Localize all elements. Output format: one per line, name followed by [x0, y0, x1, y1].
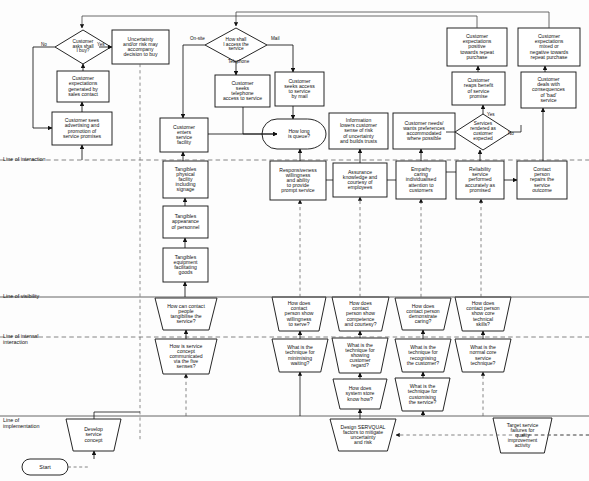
edge-access-mail: [267, 45, 293, 72]
node-how-does-system-store-know-how: [333, 379, 387, 409]
node-customer-enters-service-facility: [160, 118, 208, 152]
node-develop-service-concept: [66, 419, 121, 451]
node-technique-recognising-customer: [395, 339, 451, 372]
node-how-does-demonstrate-caring: [395, 298, 451, 330]
edge-access-onsite: [183, 45, 205, 118]
node-normal-core-service-technique: [455, 339, 511, 372]
node-tangibles-appearance-personnel: [163, 206, 208, 238]
edge-feedback-positive-to-start: [82, 16, 477, 28]
node-uncertainty-risk-accompany: [112, 30, 169, 64]
node-how-does-show-technical-skills: [455, 297, 511, 331]
service-blueprint-diagram: Line of interactionLine of visibilityLin…: [0, 0, 589, 481]
edge-develop-concept-link: [94, 412, 140, 419]
edge-feedback-mixed-to-access: [236, 12, 549, 28]
node-services-rendered-as-expected: [455, 114, 511, 150]
node-tangibles-equipment-goods: [163, 248, 208, 282]
node-how-shall-i-access-service: [205, 28, 267, 62]
node-responsiveness: [270, 161, 326, 200]
node-design-servqual-factors: [330, 419, 396, 451]
node-reliability: [456, 161, 504, 199]
band-label-line-of-visibility: Line of visibility: [3, 293, 39, 299]
band-label-line-of-internal-interaction: Line of internal interaction: [3, 333, 38, 345]
node-how-is-service-concept-communicated: [155, 339, 217, 374]
edge-label-label-yes-rendered: Yes: [487, 112, 495, 117]
node-how-can-contact-tangibilise: [155, 298, 217, 330]
edge-label-label-no-rendered: No: [508, 131, 514, 136]
node-contact-person-repairs: [517, 161, 567, 199]
node-customer-seeks-access-by-mail: [275, 72, 324, 106]
node-customer-sees-advertising: [52, 112, 112, 145]
edge-label-label-onsite: On-site: [190, 36, 205, 41]
node-technique-minimising-waiting: [272, 339, 328, 372]
node-information-lowers-risk: [329, 113, 388, 149]
node-how-does-show-competence: [332, 297, 389, 331]
node-how-does-show-willingness: [272, 297, 326, 331]
node-label-start: Start: [22, 459, 68, 475]
node-customer-expectations-mixed: [518, 28, 580, 66]
node-technique-customising-service: [395, 378, 450, 411]
node-target-service-failures: [493, 418, 552, 453]
band-label-line-of-interaction: Line of interaction: [3, 156, 46, 162]
edge-label-label-mail: Mail: [271, 36, 279, 41]
diagram-canvas: [0, 0, 589, 481]
node-customer-expectations-positive: [447, 28, 507, 66]
node-tangibles-physical-facility: [163, 161, 208, 198]
node-customer-expectations-sales-contact: [57, 71, 109, 102]
edge-label-label-telephone: Telephone: [228, 59, 249, 64]
edge-label-label-yes-buy: Yes: [97, 42, 105, 47]
node-customer-reaps-benefit: [452, 72, 505, 105]
node-technique-showing-customer-regard: [332, 338, 388, 373]
node-customer-seeks-telephone-access: [215, 75, 270, 107]
node-customer-needs-accommodated: [393, 113, 455, 149]
node-assurance: [333, 163, 387, 197]
node-empathy: [396, 161, 446, 199]
edge-label-label-no-buy: No: [41, 42, 47, 47]
band-label-line-of-implementation: Line of implementation: [3, 417, 40, 429]
node-customer-deals-with-consequences: [521, 72, 576, 108]
node-shapes-layer: [22, 28, 580, 475]
